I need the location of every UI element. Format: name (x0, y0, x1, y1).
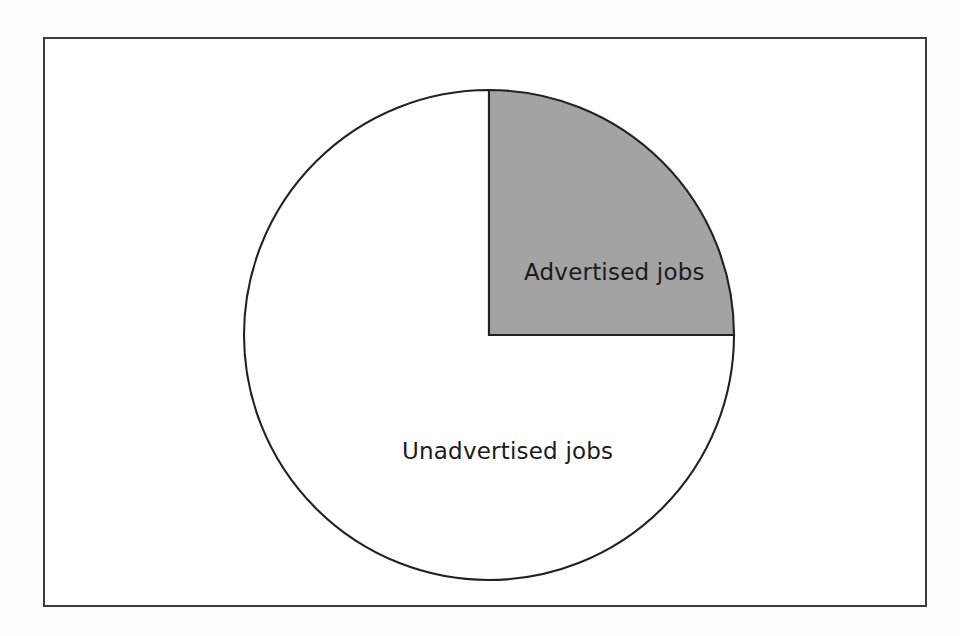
chart-frame-border (43, 37, 927, 607)
pie-slice-label-unadvertised: Unadvertised jobs (402, 438, 613, 464)
figure-root: Advertised jobs Unadvertised jobs (0, 0, 960, 636)
pie-slice-label-advertised: Advertised jobs (524, 259, 705, 285)
